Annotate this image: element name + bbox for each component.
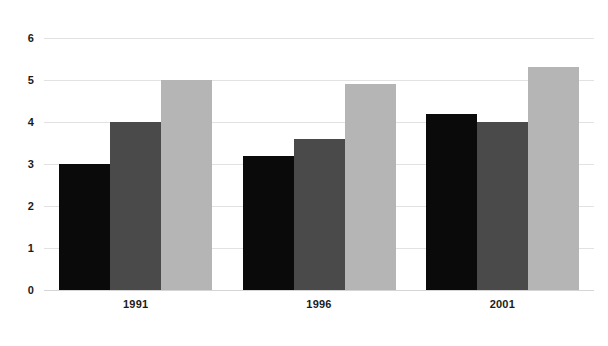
- bar-1991-series-2: [110, 122, 161, 290]
- bar-1996-series-2: [294, 139, 345, 290]
- bar-2001-series-3: [528, 67, 579, 290]
- x-tick-label-1996: 1996: [243, 299, 396, 310]
- bar-1991-series-1: [59, 164, 110, 290]
- y-tick-label-2: 2: [0, 201, 34, 212]
- x-tick-label-2001: 2001: [426, 299, 579, 310]
- y-tick-label-1: 1: [0, 243, 34, 254]
- bar-1996-series-1: [243, 156, 294, 290]
- bar-1996-series-3: [345, 84, 396, 290]
- y-tick-label-3: 3: [0, 159, 34, 170]
- y-tick-label-5: 5: [0, 75, 34, 86]
- plot-area: [44, 38, 594, 290]
- gridline-0: [44, 290, 594, 291]
- bar-1991-series-3: [161, 80, 212, 290]
- bar-2001-series-1: [426, 114, 477, 290]
- y-tick-label-6: 6: [0, 33, 34, 44]
- bar-2001-series-2: [477, 122, 528, 290]
- x-tick-label-1991: 1991: [59, 299, 212, 310]
- y-tick-label-4: 4: [0, 117, 34, 128]
- y-tick-label-0: 0: [0, 285, 34, 296]
- bar-chart: 0123456 199119962001: [0, 0, 608, 346]
